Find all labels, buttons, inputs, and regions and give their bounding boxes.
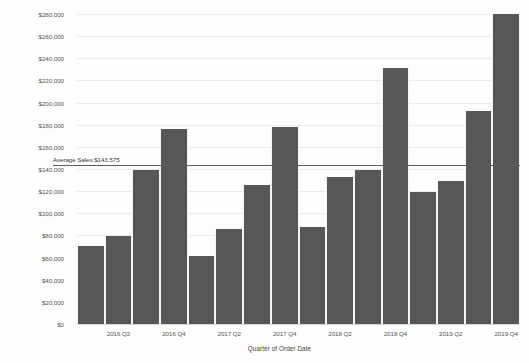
x-tick-label: 2017 Q2 (218, 330, 241, 337)
bar-slot (160, 14, 188, 324)
x-tick-label: 2018 Q2 (328, 330, 351, 337)
bar-slot (132, 14, 160, 324)
x-tick-slot: 2017 Q4 (271, 330, 299, 344)
bar[interactable] (215, 229, 243, 324)
y-tick-label: $100,000 (4, 210, 64, 217)
bar-slot (326, 14, 354, 324)
bar-slot (492, 14, 520, 324)
bar[interactable] (437, 181, 465, 324)
y-tick-label: $180,000 (4, 121, 64, 128)
x-tick-label: 2016 Q2 (107, 330, 130, 337)
x-tick-slot: 2016 Q4 (160, 330, 188, 344)
y-tick-label: $280,000 (4, 11, 64, 18)
x-tick-slot: 2019 Q2 (437, 330, 465, 344)
bar-slot (299, 14, 327, 324)
bar[interactable] (299, 227, 327, 324)
x-tick-slot (465, 330, 493, 344)
bar-slot (188, 14, 216, 324)
x-tick-slot: 2018 Q4 (382, 330, 410, 344)
x-tick-label: 2018 Q4 (384, 330, 407, 337)
y-tick-label: $60,000 (4, 254, 64, 261)
bar[interactable] (382, 68, 410, 324)
x-tick-slot (77, 330, 105, 344)
x-tick-slot: 2019 Q4 (492, 330, 520, 344)
bar-slot (105, 14, 133, 324)
bar[interactable] (105, 236, 133, 324)
bar-slot (243, 14, 271, 324)
bar-slot (271, 14, 299, 324)
bar-chart-screenshot: Sales $280,000$260,000$240,000$220,000$2… (0, 0, 529, 363)
bar-slot (409, 14, 437, 324)
bar-slot (215, 14, 243, 324)
x-tick-slot (409, 330, 437, 344)
y-tick-label: $160,000 (4, 143, 64, 150)
y-tick-label: $80,000 (4, 232, 64, 239)
x-tick-slot (299, 330, 327, 344)
y-tick-label: $240,000 (4, 55, 64, 62)
bar[interactable] (188, 256, 216, 324)
x-tick-label: 2019 Q2 (439, 330, 462, 337)
bar-slot (465, 14, 493, 324)
x-tick-label: 2016 Q4 (162, 330, 185, 337)
x-tick-slot: 2016 Q2 (105, 330, 133, 344)
bar-slot (77, 14, 105, 324)
bar[interactable] (132, 170, 160, 324)
bar[interactable] (354, 170, 382, 324)
bar[interactable] (465, 111, 493, 324)
plot-area: $280,000$260,000$240,000$220,000$200,000… (77, 14, 520, 324)
x-tick-slot (354, 330, 382, 344)
x-tick-slot (132, 330, 160, 344)
y-tick-label: $140,000 (4, 166, 64, 173)
bar[interactable] (271, 127, 299, 324)
x-tick-slot: 2018 Q2 (326, 330, 354, 344)
bar[interactable] (243, 185, 271, 324)
y-tick-label: $120,000 (4, 188, 64, 195)
bar-slot (382, 14, 410, 324)
average-reference-label: Average Sales:$143,575 (53, 156, 120, 163)
x-tick-slot: 2017 Q2 (215, 330, 243, 344)
y-tick-label: $0 (4, 321, 64, 328)
x-tick-slot (243, 330, 271, 344)
x-axis-tick-labels: 2016 Q22016 Q42017 Q22017 Q42018 Q22018 … (77, 330, 520, 344)
bar[interactable] (77, 246, 105, 324)
x-axis-title-text: Quarter of Order Date (218, 345, 311, 352)
y-tick-label: $200,000 (4, 99, 64, 106)
y-tick-label: $40,000 (4, 276, 64, 283)
bars-group (77, 14, 520, 324)
bar[interactable] (326, 177, 354, 324)
x-tick-label: 2019 Q4 (494, 330, 517, 337)
y-tick-label: $220,000 (4, 77, 64, 84)
bar-slot (437, 14, 465, 324)
bar[interactable] (409, 192, 437, 324)
y-tick-label: $260,000 (4, 33, 64, 40)
x-tick-label: 2017 Q4 (273, 330, 296, 337)
y-tick-label: $20,000 (4, 298, 64, 305)
average-reference-line (53, 165, 520, 166)
bar[interactable] (492, 14, 520, 324)
bar[interactable] (160, 129, 188, 324)
x-tick-slot (188, 330, 216, 344)
bar-slot (354, 14, 382, 324)
gridline (77, 324, 520, 325)
x-axis-title: Quarter of Order Date (0, 345, 529, 352)
